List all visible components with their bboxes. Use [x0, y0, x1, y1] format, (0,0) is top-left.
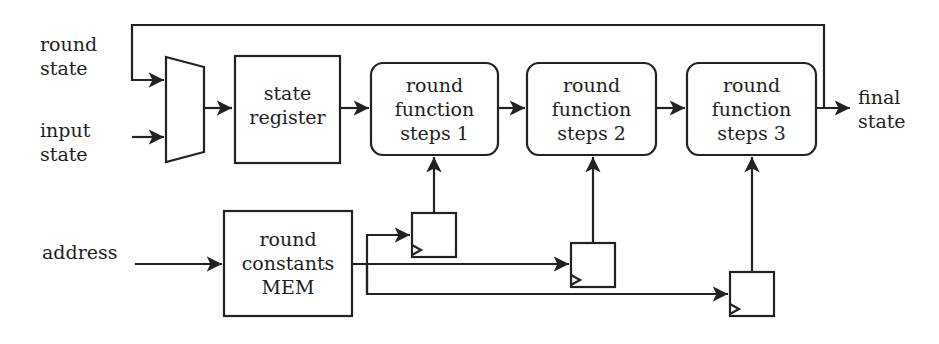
rf2-line1: round: [527, 73, 656, 97]
mem-line3: MEM: [224, 275, 352, 299]
mem-line2: constants: [224, 251, 352, 275]
state-register-label: state register: [235, 81, 340, 129]
mem-to-ff3-wire: [367, 264, 728, 294]
diagram-canvas: [0, 0, 939, 344]
input-state-label: input state: [40, 118, 120, 166]
round-function-1-label: round function steps 1: [371, 73, 498, 145]
mem-line1: round: [224, 227, 352, 251]
rf1-line3: steps 1: [371, 121, 498, 145]
flip-flop-2: [571, 243, 615, 287]
multiplexer: [166, 57, 204, 162]
rf3-line1: round: [687, 73, 816, 97]
round-constants-mem-label: round constants MEM: [224, 227, 352, 299]
address-label: address: [42, 240, 132, 264]
final-state-line1: final: [858, 85, 938, 109]
round-state-label: round state: [40, 32, 120, 80]
rf2-line3: steps 2: [527, 121, 656, 145]
rf3-line2: function: [687, 97, 816, 121]
state-register-line2: register: [235, 105, 340, 129]
round-state-line1: round: [40, 32, 120, 56]
input-state-line1: input: [40, 118, 120, 142]
flip-flop-3: [730, 272, 774, 316]
input-state-line2: state: [40, 142, 120, 166]
round-function-2-label: round function steps 2: [527, 73, 656, 145]
state-register-line1: state: [235, 81, 340, 105]
rf3-line3: steps 3: [687, 121, 816, 145]
rf2-line2: function: [527, 97, 656, 121]
round-function-3-label: round function steps 3: [687, 73, 816, 145]
flip-flop-1: [412, 213, 456, 257]
final-state-line2: state: [858, 109, 938, 133]
rf1-line1: round: [371, 73, 498, 97]
round-state-line2: state: [40, 56, 120, 80]
final-state-label: final state: [858, 85, 938, 133]
rf1-line2: function: [371, 97, 498, 121]
